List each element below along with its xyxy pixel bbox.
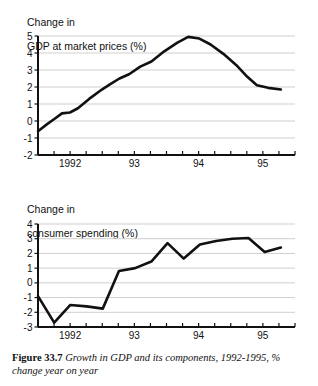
x-axis-label: 1992 xyxy=(59,330,82,341)
y-axis-label: 5 xyxy=(27,31,33,42)
data-line xyxy=(38,37,281,131)
y-axis-label: -2 xyxy=(24,307,33,318)
x-axis-label: 93 xyxy=(129,330,141,341)
y-axis-label: -2 xyxy=(24,150,33,161)
y-axis-label: 0 xyxy=(27,116,33,127)
y-axis-label: 2 xyxy=(27,82,33,93)
consumer-spending-chart-plot: 43210-1-2-31992939495 xyxy=(0,215,318,355)
x-axis-label: 94 xyxy=(193,158,205,169)
y-axis-label: 4 xyxy=(27,48,33,59)
figure-container: Change in GDP at market prices (%) 54321… xyxy=(0,0,318,386)
gdp-chart-title-line1: Change in xyxy=(27,16,146,28)
x-axis-label: 95 xyxy=(257,330,269,341)
y-axis-label: 0 xyxy=(27,277,33,288)
y-axis-label: -1 xyxy=(24,133,33,144)
y-axis-label: 2 xyxy=(27,248,33,259)
x-axis-label: 1992 xyxy=(59,158,82,169)
y-axis-label: 4 xyxy=(27,219,33,230)
x-axis-label: 94 xyxy=(193,330,205,341)
figure-caption-label: Figure 33.7 xyxy=(12,352,63,363)
x-axis-label: 95 xyxy=(257,158,269,169)
gdp-chart-svg: 543210-1-21992939495 xyxy=(0,28,318,188)
consumer-spending-chart-svg: 43210-1-2-31992939495 xyxy=(0,215,318,355)
gdp-chart-plot: 543210-1-21992939495 xyxy=(0,28,318,188)
y-axis-label: 1 xyxy=(27,263,33,274)
y-axis-label: 1 xyxy=(27,99,33,110)
data-line xyxy=(38,238,281,323)
figure-caption: Figure 33.7 Growth in GDP and its compon… xyxy=(12,352,310,377)
y-axis-label: 3 xyxy=(27,233,33,244)
x-axis-label: 93 xyxy=(129,158,141,169)
consumer-spending-title-line1: Change in xyxy=(27,203,138,215)
y-axis-label: -3 xyxy=(24,322,33,333)
y-axis-label: -1 xyxy=(24,292,33,303)
y-axis-label: 3 xyxy=(27,65,33,76)
